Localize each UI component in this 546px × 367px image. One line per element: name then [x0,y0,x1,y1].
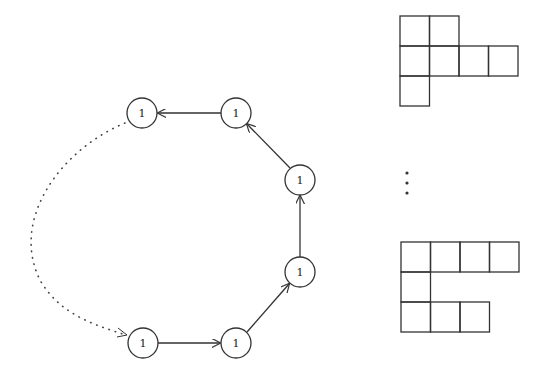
young-cell [460,302,490,332]
young-diagrams [400,16,519,332]
graph-node: 1 [221,328,251,358]
graph-edges [31,113,300,343]
young-cell [489,46,519,76]
young-cell [400,16,430,46]
vertical-ellipsis-icon [405,171,408,194]
graph-node: 1 [285,257,315,287]
young-cell [400,46,430,76]
graph-node: 1 [127,98,157,128]
young-cell [431,302,461,332]
node-label: 1 [233,107,240,120]
young-cell [401,272,431,302]
young-cell [460,242,490,272]
node-label: 1 [140,337,147,350]
young-cell [400,76,430,106]
edge-n6-n1-dotted [31,123,126,335]
young-cell [490,242,520,272]
young-cell [430,46,460,76]
graph-node: 1 [221,98,251,128]
node-label: 1 [233,337,240,350]
dotted-arrowhead-icon [117,328,127,337]
young-cell [431,242,461,272]
node-label: 1 [139,107,146,120]
edge-n2-n3 [247,284,289,332]
young-cell [430,16,460,46]
node-label: 1 [297,174,304,187]
graph-node: 1 [285,165,315,195]
top-diagram [400,16,518,106]
node-label: 1 [297,266,304,279]
graph-node: 1 [128,328,158,358]
cycle-graph-diagram: 111111 [0,0,546,367]
bottom-diagram [401,242,519,332]
young-cell [401,242,431,272]
young-cell [401,302,431,332]
graph-nodes: 111111 [127,98,315,358]
young-cell [459,46,489,76]
edge-n4-n5 [247,124,290,168]
